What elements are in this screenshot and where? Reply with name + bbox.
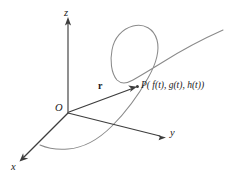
position-vector-line	[69, 89, 131, 112]
figure-canvas	[0, 0, 227, 182]
point-p-marker	[136, 85, 139, 88]
space-curve-figure: z y x O r P( f(t), g(t), h(t))	[0, 0, 227, 182]
y-axis-line	[68, 113, 160, 136]
origin-label: O	[55, 103, 63, 114]
x-axis-label: x	[11, 162, 16, 173]
point-p-label: P( f(t), g(t), h(t))	[141, 81, 204, 91]
position-vector-arrow-icon	[128, 86, 137, 92]
y-axis-arrow-icon	[157, 135, 166, 140]
position-vector-label: r	[98, 81, 102, 91]
x-axis-line	[24, 113, 68, 157]
y-axis-label: y	[170, 128, 175, 139]
z-axis-label: z	[64, 8, 68, 19]
